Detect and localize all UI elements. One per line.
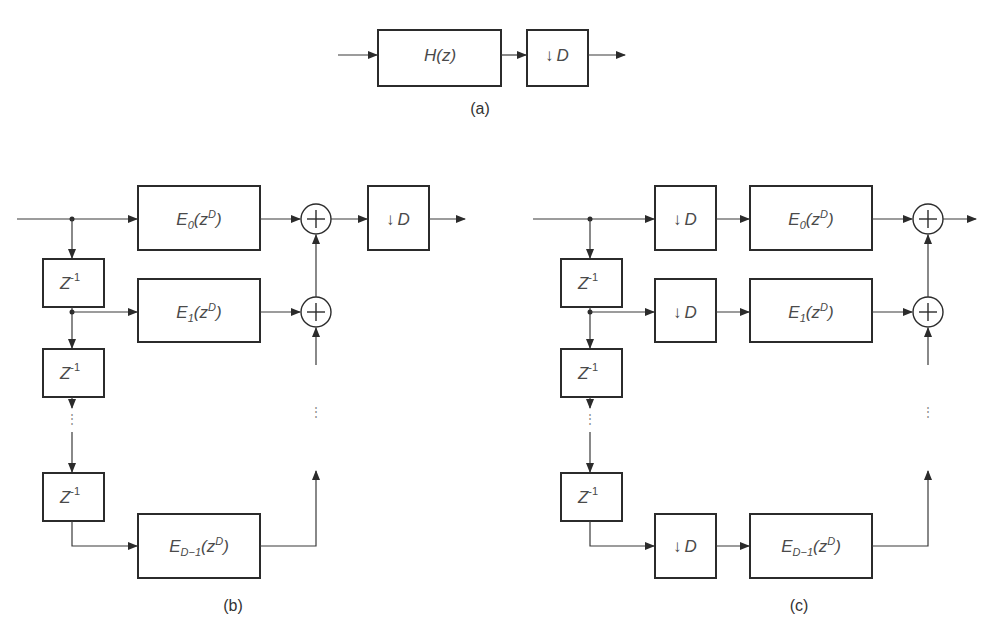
downsampler-label: ↓D: [673, 537, 697, 556]
delay-block-3: [561, 473, 622, 521]
panel-a: H(z) ↓D (a): [338, 30, 625, 117]
caption-a: (a): [470, 100, 490, 117]
panel-b: E0(zD) ↓D Z-1 E1(zD) Z-1 ⋮ ⋮: [17, 186, 465, 614]
polyphase-decimator-diagram: H(z) ↓D (a) E0(zD) ↓D Z-1 E1(zD): [0, 0, 993, 631]
caption-c: (c): [790, 597, 809, 614]
delay-block-3: [43, 473, 104, 521]
delay-block-1: [561, 259, 622, 307]
delay-block-2: [43, 349, 104, 397]
dd1-in-arrow: [590, 521, 654, 546]
downsampler-label: ↓D: [545, 46, 569, 65]
ed1-out-arrow: [872, 471, 928, 546]
downsampler-label: ↓D: [673, 303, 697, 322]
ellipsis: ⋮: [66, 412, 78, 426]
downsampler-label: ↓D: [386, 210, 410, 229]
ed1-out-arrow: [260, 471, 316, 546]
ellipsis: ⋮: [922, 405, 934, 419]
downsampler-label: ↓D: [673, 210, 697, 229]
panel-c: ↓D E0(zD) Z-1 ↓D E1(zD) Z-1 ⋮ ⋮: [533, 186, 976, 614]
delay-block-2: [561, 349, 622, 397]
delay-block-1: [43, 259, 104, 307]
filter-label: H(z): [424, 46, 456, 65]
ed1-in-arrow: [72, 521, 137, 546]
ellipsis: ⋮: [310, 405, 322, 419]
ellipsis: ⋮: [584, 412, 596, 426]
caption-b: (b): [223, 597, 243, 614]
